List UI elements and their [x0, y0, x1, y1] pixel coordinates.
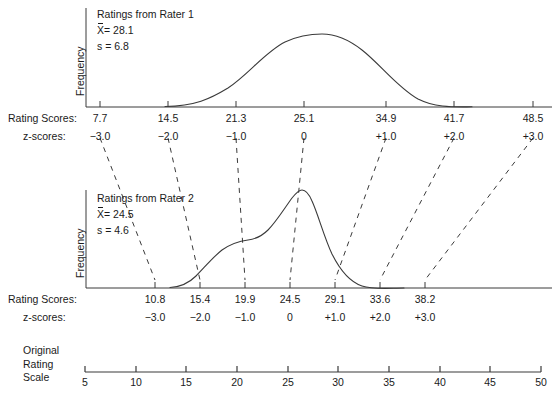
panel2-distribution-curve: [170, 190, 404, 289]
panel1-z-score-0: −3.0: [90, 130, 111, 142]
connector-z-plus1: [335, 138, 386, 280]
panel1-z-scores-row-label: z-scores:: [23, 130, 66, 142]
panel1-rating-score-2: 21.3: [226, 112, 246, 124]
connector-z-plus3: [425, 138, 533, 280]
original-rating-scale-axis: [85, 366, 541, 372]
panel2-x-ticks: [155, 282, 425, 288]
panel1-z-score-4: +1.0: [376, 130, 397, 142]
panel1-y-axis-label: Frequency: [74, 46, 86, 96]
panel2-z-score-4: +1.0: [325, 311, 346, 323]
original-scale-label-line1: Original: [23, 344, 59, 358]
connector-z-minus2: [168, 138, 200, 280]
panel1-z-score-3: 0: [301, 130, 307, 142]
original-scale-label-line2: Rating: [23, 358, 59, 372]
panel1-sd-stat: s = 6.8: [97, 40, 129, 52]
panel1-mean-stat: X= 28.1: [97, 24, 134, 36]
panel2-mean-value: = 24.5: [104, 208, 134, 220]
z-score-connector-lines: [100, 138, 533, 280]
panel1-z-score-5: +2.0: [444, 130, 465, 142]
panel1-rating-score-4: 34.9: [376, 112, 396, 124]
original-scale-tick-4: 25: [282, 376, 294, 388]
panel1-rating-scores-row-label: Rating Scores:: [8, 112, 77, 124]
original-scale-tick-5: 30: [332, 376, 344, 388]
panel2-rating-score-2: 19.9: [235, 293, 255, 305]
panel1-mean-value: = 28.1: [104, 24, 134, 36]
panel2-rating-score-0: 10.8: [145, 293, 165, 305]
original-scale-tick-0: 5: [82, 376, 88, 388]
panel2-rating-score-3: 24.5: [280, 293, 300, 305]
panel2-rating-score-6: 38.2: [415, 293, 435, 305]
distribution-comparison-figure: Frequency Ratings from Rater 1 X= 28.1 s…: [0, 0, 558, 398]
panel2-y-axis-label: Frequency: [74, 228, 86, 278]
original-scale-tick-6: 35: [383, 376, 395, 388]
panel2-rating-scores-row-label: Rating Scores:: [8, 293, 77, 305]
panel1-rating-score-1: 14.5: [158, 112, 178, 124]
panel2-z-score-0: −3.0: [145, 311, 166, 323]
original-scale-tick-7: 40: [434, 376, 446, 388]
panel2-rating-score-5: 33.6: [370, 293, 390, 305]
panel1-rating-score-6: 48.5: [523, 112, 543, 124]
original-scale-label-line3: Scale: [23, 371, 59, 385]
panel2-z-score-3: 0: [287, 311, 293, 323]
panel2-sd-stat: s = 4.6: [97, 224, 129, 236]
connector-z-zero: [290, 138, 304, 280]
original-scale-tick-8: 45: [484, 376, 496, 388]
panel1-axes: [86, 8, 552, 107]
panel2-mean-stat: X= 24.5: [97, 208, 134, 220]
panel2-rating-score-4: 29.1: [325, 293, 345, 305]
original-scale-tick-3: 20: [231, 376, 243, 388]
panel2-mean-symbol: X: [97, 208, 104, 220]
original-scale-tick-1: 10: [130, 376, 142, 388]
panel1-rating-score-3: 25.1: [294, 112, 314, 124]
panel1-mean-symbol: X: [97, 24, 104, 36]
panel1-z-score-1: −2.0: [158, 130, 179, 142]
panel2-z-score-2: −1.0: [235, 311, 256, 323]
original-scale-tick-2: 15: [180, 376, 192, 388]
panel2-z-score-6: +3.0: [415, 311, 436, 323]
panel1-title: Ratings from Rater 1: [97, 8, 194, 20]
panel2-z-score-5: +2.0: [370, 311, 391, 323]
panel1-z-score-2: −1.0: [226, 130, 247, 142]
panel2-title: Ratings from Rater 2: [97, 192, 194, 204]
panel1-distribution-curve: [165, 34, 472, 107]
original-scale-tick-9: 50: [535, 376, 547, 388]
panel2-z-score-1: −2.0: [190, 311, 211, 323]
panel1-rating-score-0: 7.7: [93, 112, 108, 124]
panel2-z-scores-row-label: z-scores:: [23, 311, 66, 323]
connector-z-plus2: [380, 138, 454, 280]
panel1-z-score-6: +3.0: [523, 130, 544, 142]
panel2-rating-score-1: 15.4: [190, 293, 210, 305]
connector-z-minus1: [236, 138, 245, 280]
panel1-rating-score-5: 41.7: [444, 112, 464, 124]
original-scale-label: Original Rating Scale: [23, 344, 59, 385]
